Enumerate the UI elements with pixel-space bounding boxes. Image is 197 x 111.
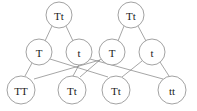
- genotype-node-g3[interactable]: T: [99, 39, 125, 65]
- genotype-node-o2[interactable]: Tt: [58, 76, 86, 104]
- genotype-node-o3[interactable]: Tt: [102, 76, 130, 104]
- node-label: Tt: [126, 10, 136, 22]
- genotype-node-o1[interactable]: TT: [7, 76, 35, 104]
- node-label: tt: [169, 85, 175, 97]
- punnett-cross-diagram: TtTtTtTtTTTtTttt: [0, 0, 197, 111]
- cross-diagram-canvas: TtTtTtTtTTTtTttt: [0, 0, 197, 111]
- cross-edge: [118, 26, 124, 41]
- node-label: Tt: [111, 85, 121, 97]
- genotype-node-p1[interactable]: Tt: [46, 2, 72, 28]
- cross-edge: [25, 63, 32, 76]
- node-label: t: [150, 47, 153, 59]
- node-label: Tt: [67, 85, 77, 97]
- node-label: TT: [14, 85, 28, 97]
- genotype-node-p2[interactable]: Tt: [118, 2, 144, 28]
- genotype-node-o4[interactable]: tt: [158, 76, 186, 104]
- genotype-node-g2[interactable]: t: [66, 39, 92, 65]
- cross-edge: [138, 26, 146, 41]
- genotype-node-g1[interactable]: T: [26, 39, 52, 65]
- node-label: T: [109, 47, 116, 59]
- cross-edge: [160, 62, 169, 76]
- nodes-layer: TtTtTtTtTTTtTttt: [7, 2, 186, 104]
- cross-edge: [122, 61, 142, 77]
- parent-generation: TtTt: [46, 2, 144, 28]
- genotype-node-g4[interactable]: t: [139, 39, 165, 65]
- cross-edge: [66, 26, 73, 41]
- node-label: T: [36, 47, 43, 59]
- node-label: Tt: [54, 10, 64, 22]
- cross-edge: [45, 26, 52, 41]
- offspring-generation: TTTtTttt: [7, 76, 186, 104]
- node-label: t: [77, 47, 80, 59]
